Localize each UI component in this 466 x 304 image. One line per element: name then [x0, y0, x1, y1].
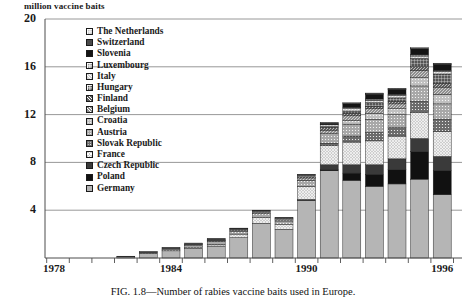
bar-segment-1989-switzerland	[275, 217, 293, 218]
bar-segment-1996-austria	[433, 104, 451, 120]
bar-segment-1985-switzerland	[185, 243, 203, 245]
legend-swatch-icon	[86, 140, 93, 147]
bar-1985[interactable]	[185, 243, 203, 258]
bar-segment-1995-france	[411, 112, 429, 138]
bar-segment-1988-austria	[252, 214, 270, 218]
bar-segment-1987-austria	[230, 231, 248, 234]
bar-segment-1992-austria	[343, 124, 361, 136]
bar-1992[interactable]	[343, 103, 361, 258]
legend-item-slovenia[interactable]: Slovenia	[86, 48, 236, 59]
bar-segment-1994-poland	[388, 170, 406, 184]
bar-segment-1993-belgium	[365, 109, 383, 114]
x-tick-label-1996: 1996	[421, 262, 463, 274]
bar-segment-1994-slovenia	[388, 90, 406, 95]
legend-item-luxembourg[interactable]: Luxembourg	[86, 60, 236, 71]
y-tick-label-4: 4	[10, 202, 36, 217]
bar-segment-1996-poland	[433, 171, 451, 195]
legend-swatch-icon	[86, 106, 93, 113]
bar-segment-1986-germany	[207, 246, 225, 258]
bar-segment-1992-croatia	[343, 121, 361, 125]
bar-1990[interactable]	[298, 174, 316, 258]
legend-item-belgium[interactable]: Belgium	[86, 104, 236, 115]
bar-1994[interactable]	[388, 88, 406, 258]
bar-segment-1992-hungary	[343, 111, 361, 113]
bar-1993[interactable]	[365, 93, 383, 258]
legend-item-czech-republic[interactable]: Czech Republic	[86, 160, 236, 171]
bar-1988[interactable]	[252, 210, 270, 258]
bar-segment-1992-slovak-republic	[343, 136, 361, 142]
bar-segment-1995-croatia	[411, 78, 429, 86]
bar-segment-1994-austria	[388, 115, 406, 128]
legend-item-croatia[interactable]: Croatia	[86, 116, 236, 127]
bar-segment-1991-finland	[320, 128, 338, 130]
legend-item-france[interactable]: France	[86, 149, 236, 160]
y-tick-label-16: 16	[10, 59, 36, 74]
bar-segment-1993-hungary	[365, 103, 383, 107]
y-tick-label-20: 20	[10, 11, 36, 26]
bar-segment-1993-germany	[365, 186, 383, 258]
bar-segment-1987-switzerland	[230, 228, 248, 229]
bar-segment-1991-germany	[320, 171, 338, 258]
bar-1983[interactable]	[139, 251, 157, 258]
bar-segment-1996-slovenia	[433, 64, 451, 70]
legend-item-the-netherlands[interactable]: The Netherlands	[86, 26, 236, 37]
bar-segment-1989-austria	[275, 221, 293, 225]
legend-label: Hungary	[97, 83, 133, 92]
bar-segment-1991-france	[320, 146, 338, 165]
legend-swatch-icon	[86, 84, 93, 91]
bar-segment-1986-france	[207, 244, 225, 246]
bar-segment-1996-the-netherlands	[433, 63, 451, 64]
legend-item-germany[interactable]: Germany	[86, 183, 236, 194]
bar-segment-1993-austria	[365, 119, 383, 132]
x-tick-label-1978: 1978	[33, 262, 75, 274]
bar-segment-1983-switzerland	[139, 251, 157, 252]
bar-segment-1996-croatia	[433, 94, 451, 104]
legend-label: Finland	[97, 94, 128, 103]
bar-1991[interactable]	[320, 122, 338, 258]
bar-segment-1990-france	[298, 186, 316, 199]
bar-segment-1996-czech-republic	[433, 156, 451, 170]
bar-segment-1992-belgium	[343, 116, 361, 121]
bar-1996[interactable]	[433, 63, 451, 258]
bar-segment-1993-finland	[365, 106, 383, 108]
bar-segment-1984-austria	[162, 249, 180, 251]
figure-rabies-vaccine-baits: million vaccine baits 48121620 197819841…	[0, 0, 466, 304]
bar-segment-1994-czech-republic	[388, 159, 406, 170]
legend-item-hungary[interactable]: Hungary	[86, 82, 236, 93]
legend-item-austria[interactable]: Austria	[86, 127, 236, 138]
chart-legend: The NetherlandsSwitzerlandSloveniaLuxemb…	[86, 26, 236, 194]
bar-segment-1992-the-netherlands	[343, 103, 361, 104]
bar-1984[interactable]	[162, 247, 180, 258]
bar-segment-1995-poland	[411, 152, 429, 179]
legend-label: Poland	[97, 172, 125, 181]
bar-segment-1994-finland	[388, 101, 406, 103]
legend-swatch-icon	[86, 73, 93, 80]
legend-label: Belgium	[97, 105, 130, 114]
bar-segment-1982-switzerland	[117, 256, 135, 257]
bar-segment-1994-hungary	[388, 98, 406, 102]
bar-segment-1993-france	[365, 141, 383, 165]
bar-segment-1995-czech-republic	[411, 139, 429, 152]
legend-item-finland[interactable]: Finland	[86, 93, 236, 104]
bar-1995[interactable]	[411, 48, 429, 258]
legend-item-slovak-republic[interactable]: Slovak Republic	[86, 138, 236, 149]
bar-segment-1994-croatia	[388, 109, 406, 115]
legend-swatch-icon	[86, 174, 93, 181]
legend-item-switzerland[interactable]: Switzerland	[86, 37, 236, 48]
bar-segment-1995-slovenia	[411, 49, 429, 55]
legend-swatch-icon	[86, 28, 93, 35]
legend-item-poland[interactable]: Poland	[86, 171, 236, 182]
bar-segment-1988-france	[252, 217, 270, 223]
bar-1986[interactable]	[207, 238, 225, 258]
bar-segment-1996-germany	[433, 195, 451, 258]
bar-segment-1995-germany	[411, 179, 429, 258]
bar-segment-1995-slovak-republic	[411, 101, 429, 112]
legend-swatch-icon	[86, 162, 93, 169]
bar-1989[interactable]	[275, 217, 293, 258]
legend-item-italy[interactable]: Italy	[86, 71, 236, 82]
bar-segment-1990-belgium	[298, 178, 316, 180]
bar-segment-1993-the-netherlands	[365, 93, 383, 94]
bar-segment-1994-the-netherlands	[388, 88, 406, 89]
bar-1987[interactable]	[230, 228, 248, 258]
bar-segment-1996-slovak-republic	[433, 119, 451, 131]
